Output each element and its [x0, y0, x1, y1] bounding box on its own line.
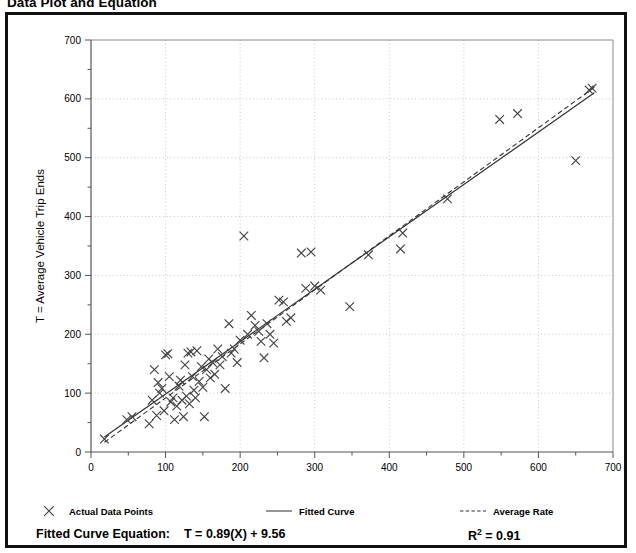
svg-text:500: 500: [64, 152, 81, 163]
svg-text:0: 0: [75, 447, 81, 458]
svg-text:500: 500: [456, 462, 473, 473]
legend-label: Actual Data Points: [69, 506, 153, 517]
svg-text:400: 400: [64, 211, 81, 222]
page-title: Data Plot and Equation: [7, 0, 157, 10]
r-squared-value: R2 = 0.91: [468, 527, 520, 543]
svg-text:300: 300: [306, 462, 323, 473]
svg-text:700: 700: [64, 35, 81, 46]
equation-row: Fitted Curve Equation: T = 0.89(X) + 9.5…: [8, 527, 624, 553]
svg-text:100: 100: [157, 462, 174, 473]
scatter-chart-svg: 0100200300400500600700010020030040050060…: [8, 15, 624, 481]
legend-label: Average Rate: [493, 506, 553, 517]
svg-text:100: 100: [64, 388, 81, 399]
legend-item-fitted-curve: Fitted Curve: [266, 499, 354, 523]
equation-label: Fitted Curve Equation:: [36, 527, 170, 541]
svg-text:200: 200: [232, 462, 249, 473]
svg-text:300: 300: [64, 270, 81, 281]
chart-plot-region: 0100200300400500600700010020030040050060…: [8, 15, 624, 481]
svg-text:200: 200: [64, 329, 81, 340]
cross-marker-icon: [36, 504, 62, 518]
r-squared-prefix: R: [468, 529, 477, 543]
svg-text:T = Average Vehicle Trip Ends: T = Average Vehicle Trip Ends: [34, 169, 46, 323]
fitted-curve-equation: Fitted Curve Equation: T = 0.89(X) + 9.5…: [36, 527, 285, 541]
chart-card-frame: 0100200300400500600700010020030040050060…: [5, 12, 627, 548]
equation-formula: T = 0.89(X) + 9.56: [184, 527, 285, 541]
dashed-line-marker-icon: [460, 504, 486, 518]
svg-text:600: 600: [530, 462, 547, 473]
legend-item-actual-data-points: Actual Data Points: [36, 499, 153, 523]
svg-text:400: 400: [381, 462, 398, 473]
legend-label: Fitted Curve: [299, 506, 354, 517]
svg-text:0: 0: [88, 462, 94, 473]
svg-text:700: 700: [605, 462, 622, 473]
chart-legend: Actual Data Points Fitted Curve Average …: [8, 499, 624, 523]
svg-text:600: 600: [64, 93, 81, 104]
r-squared-number: = 0.91: [485, 529, 520, 543]
legend-item-average-rate: Average Rate: [460, 499, 553, 523]
r-squared-exponent: 2: [477, 527, 482, 537]
gridlines-group: [91, 40, 613, 452]
solid-line-marker-icon: [266, 504, 292, 518]
